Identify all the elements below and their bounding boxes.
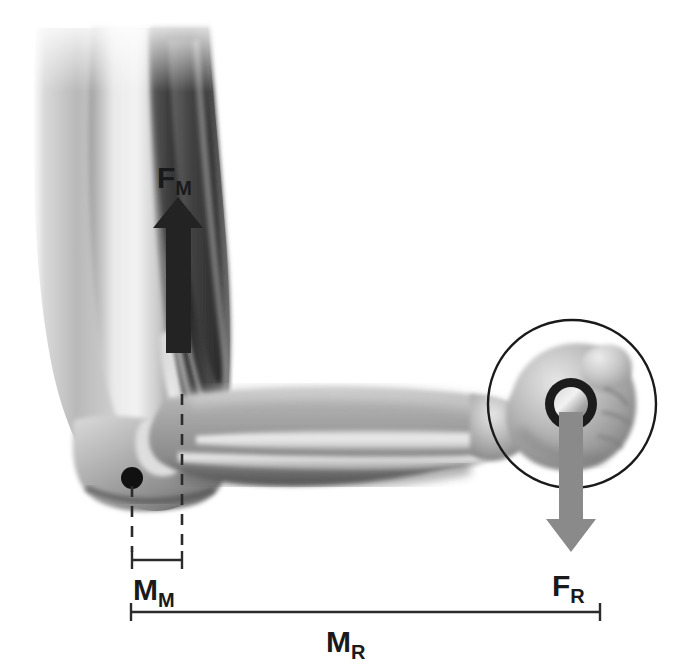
muscle-force-arrow-shaft — [166, 212, 191, 353]
upper-arm-top-fade — [20, 14, 230, 92]
resistance-force-label-subscript: R — [570, 585, 585, 607]
muscle-force-label-base: F — [157, 161, 175, 194]
muscle-moment-arm-label-base: M — [133, 573, 158, 606]
resistance-moment-arm-label-base: M — [326, 625, 351, 658]
resistance-moment-arm-label-subscript: R — [351, 641, 366, 663]
elbow-joint-fulcrum-dot — [121, 467, 143, 489]
resistance-force-label-base: F — [552, 569, 570, 602]
forearm-lever-biomechanics-figure: FM FR MM MR — [0, 0, 691, 671]
figure-canvas: FM FR MM MR — [0, 0, 691, 671]
muscle-moment-arm-label-subscript: M — [158, 589, 175, 611]
muscle-force-label-subscript: M — [175, 177, 192, 199]
resistance-force-arrow-shaft — [559, 412, 583, 519]
